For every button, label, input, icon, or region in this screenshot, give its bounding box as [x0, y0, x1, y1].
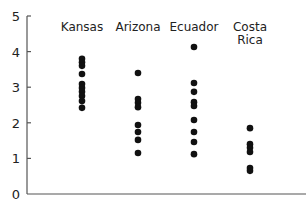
y-tick-label: 1 — [12, 151, 20, 166]
chart-canvas: 012345 KansasArizonaEcuadorCostaRica — [0, 0, 308, 207]
category-label: Kansas — [61, 20, 103, 34]
category-labels: KansasArizonaEcuadorCostaRica — [61, 20, 267, 47]
y-tick-label: 3 — [12, 80, 20, 95]
data-point — [79, 63, 86, 70]
data-point — [247, 125, 254, 132]
data-point — [247, 149, 254, 156]
data-point — [135, 70, 142, 77]
y-tick-label: 5 — [12, 9, 20, 24]
data-point — [247, 168, 254, 175]
data-point — [135, 150, 142, 157]
data-point — [135, 129, 142, 136]
category-label: Costa — [233, 20, 267, 34]
axes — [27, 16, 306, 194]
data-point — [191, 117, 198, 124]
category-label: Arizona — [115, 20, 160, 34]
data-point — [191, 89, 198, 96]
y-tick-label: 4 — [12, 45, 20, 60]
data-point — [191, 80, 198, 87]
dot-plot-chart: 012345 KansasArizonaEcuadorCostaRica — [0, 0, 308, 207]
data-point — [191, 44, 198, 51]
data-point — [191, 151, 198, 158]
data-point — [191, 129, 198, 136]
y-tick-label: 2 — [12, 116, 20, 131]
data-point — [79, 71, 86, 78]
data-point — [191, 103, 198, 110]
y-tick-labels: 012345 — [12, 9, 20, 202]
data-points — [79, 44, 254, 174]
category-label: Rica — [237, 33, 263, 47]
y-tick-label: 0 — [12, 187, 20, 202]
data-point — [79, 98, 86, 105]
data-point — [135, 104, 142, 111]
data-point — [135, 137, 142, 144]
data-point — [79, 105, 86, 112]
category-label: Ecuador — [169, 20, 218, 34]
data-point — [135, 122, 142, 129]
data-point — [191, 139, 198, 146]
